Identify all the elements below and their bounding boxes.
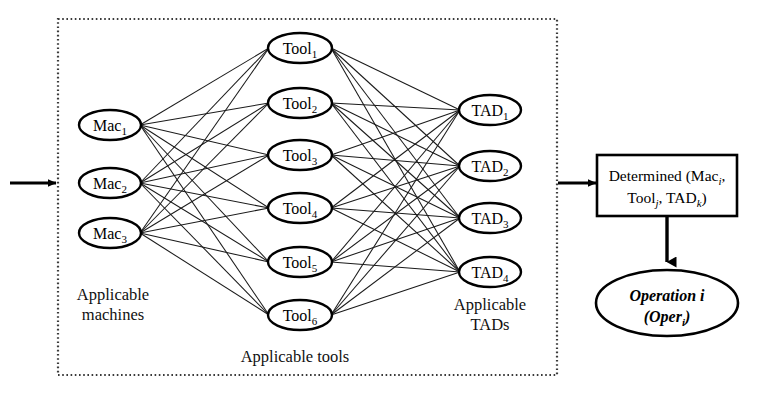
edge-tools-2-to-tads-1 bbox=[331, 103, 460, 110]
edge-machines-2-to-tools-3 bbox=[140, 155, 269, 183]
node-tads-4[interactable]: TAD4 bbox=[459, 257, 521, 287]
node-machines-3[interactable]: Mac3 bbox=[79, 218, 141, 248]
operation-determination-diagram: Mac1Mac2Mac3Tool1Tool2Tool3Tool4Tool5Too… bbox=[0, 0, 768, 407]
node-tools-3[interactable]: Tool3 bbox=[268, 140, 332, 170]
operation-ellipse[interactable]: Operation i(Operi) bbox=[596, 270, 738, 336]
node-machines-1[interactable]: Mac1 bbox=[79, 110, 141, 140]
node-tads-1[interactable]: TAD1 bbox=[459, 95, 521, 125]
caption-tads: ApplicableTADs bbox=[454, 295, 526, 334]
edge-machines-3-to-tools-4 bbox=[140, 208, 269, 233]
edge-machines-3-to-tools-5 bbox=[140, 233, 269, 262]
node-tads-2[interactable]: TAD2 bbox=[459, 151, 521, 181]
node-tools-4[interactable]: Tool4 bbox=[268, 193, 332, 223]
node-tads-3[interactable]: TAD3 bbox=[459, 203, 521, 233]
determined-box-frame bbox=[597, 155, 737, 216]
edge-machines-2-to-tools-6 bbox=[140, 183, 269, 315]
edge-machines-1-to-tools-1 bbox=[140, 48, 269, 125]
node-tools-6[interactable]: Tool6 bbox=[268, 300, 332, 330]
edge-tools-6-to-tads-4 bbox=[331, 272, 460, 315]
edge-tools-6-to-tads-3 bbox=[331, 218, 460, 315]
diagram-canvas: Mac1Mac2Mac3Tool1Tool2Tool3Tool4Tool5Too… bbox=[0, 0, 768, 407]
operation-label-line1: Operation i bbox=[629, 287, 705, 305]
edge-tools-5-to-tads-2 bbox=[331, 166, 460, 262]
node-tools-1[interactable]: Tool1 bbox=[268, 33, 332, 63]
node-tools-2[interactable]: Tool2 bbox=[268, 88, 332, 118]
edge-machines-3-to-tools-6 bbox=[140, 233, 269, 315]
edge-machines-2-to-tools-5 bbox=[140, 183, 269, 262]
caption-machines: Applicablemachines bbox=[77, 285, 149, 324]
edge-machines-3-to-tools-1 bbox=[140, 48, 269, 233]
node-machines-2[interactable]: Mac2 bbox=[79, 168, 141, 198]
edge-tools-1-to-tads-1 bbox=[331, 48, 460, 110]
edge-machines-3-to-tools-2 bbox=[140, 103, 269, 233]
edge-tools-6-to-tads-1 bbox=[331, 110, 460, 315]
determined-box[interactable]: Determined (Maci,Toolj, TADk) bbox=[597, 155, 737, 216]
caption-tools: Applicable tools bbox=[241, 347, 350, 366]
node-tools-5[interactable]: Tool5 bbox=[268, 247, 332, 277]
